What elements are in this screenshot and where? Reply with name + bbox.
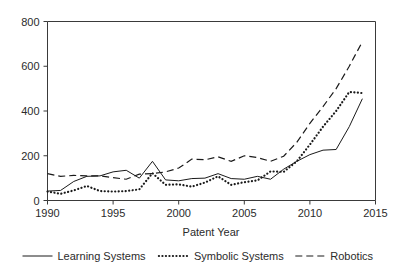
series-line-0 bbox=[48, 99, 363, 191]
y-tick-label: 400 bbox=[21, 105, 39, 117]
y-tick-label: 0 bbox=[33, 195, 39, 207]
x-tick-label: 1990 bbox=[35, 207, 59, 219]
series-line-2 bbox=[48, 42, 363, 180]
x-tick-label: 2015 bbox=[363, 207, 387, 219]
legend-label-0: Learning Systems bbox=[58, 250, 147, 262]
y-axis-tick-labels: 0200400600800 bbox=[21, 16, 39, 207]
legend-label-2: Robotics bbox=[330, 250, 373, 262]
x-tick-label: 1995 bbox=[101, 207, 125, 219]
x-axis-tick-labels: 199019952000200520102015 bbox=[35, 207, 387, 219]
y-tick-label: 200 bbox=[21, 150, 39, 162]
y-tick-label: 600 bbox=[21, 60, 39, 72]
legend-label-1: Symbolic Systems bbox=[194, 250, 284, 262]
chart-series bbox=[48, 42, 363, 194]
x-axis-title: Patent Year bbox=[183, 226, 240, 238]
chart-axes bbox=[48, 22, 376, 201]
chart-legend: Learning SystemsSymbolic SystemsRobotics bbox=[23, 250, 374, 262]
chart-figure: 0200400600800 199019952000200520102015 P… bbox=[0, 0, 399, 273]
x-tick-label: 2000 bbox=[166, 207, 190, 219]
y-tick-label: 800 bbox=[21, 16, 39, 28]
x-tick-label: 2005 bbox=[232, 207, 256, 219]
line-chart: 0200400600800 199019952000200520102015 P… bbox=[0, 0, 399, 273]
x-tick-label: 2010 bbox=[298, 207, 322, 219]
